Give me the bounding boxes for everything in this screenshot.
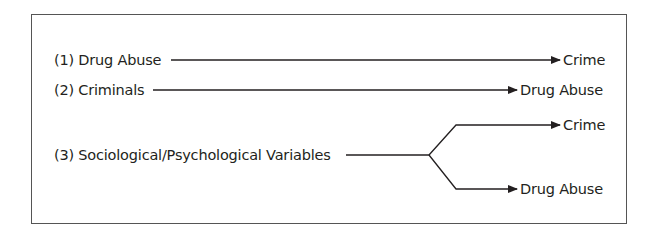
model-2-label: (2) Criminals (54, 81, 144, 99)
model-3-label: (3) Sociological/Psychological Variables (54, 146, 331, 164)
model-1-label: (1) Drug Abuse (54, 51, 161, 69)
branch-upper (429, 125, 560, 155)
model-3-target-lower: Drug Abuse (520, 180, 603, 198)
model-2-target: Drug Abuse (520, 81, 603, 99)
branch-lower (429, 155, 517, 189)
model-3-target-upper: Crime (563, 116, 605, 134)
model-1-target: Crime (563, 51, 605, 69)
arrows-layer (0, 0, 660, 240)
